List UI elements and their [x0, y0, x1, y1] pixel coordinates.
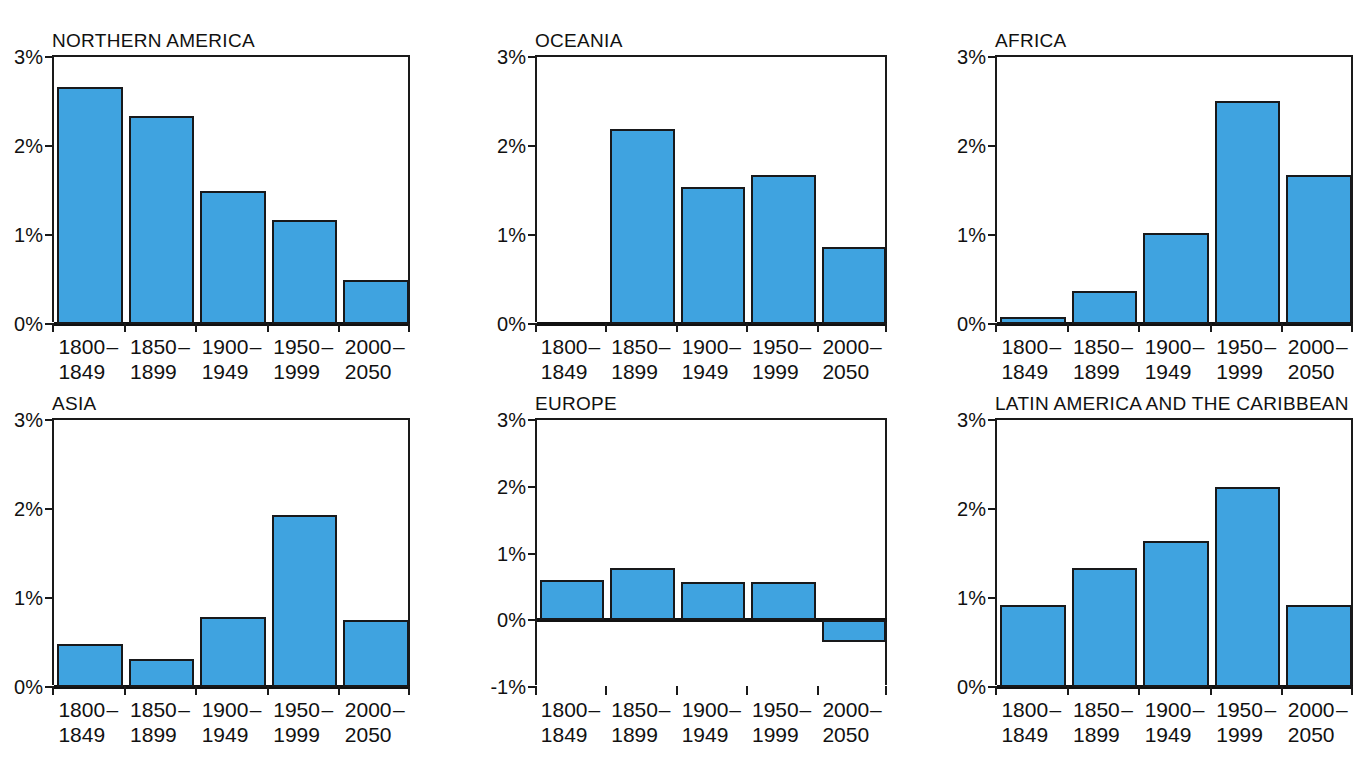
x-axis-label-range-dash: –	[1050, 334, 1062, 359]
bar	[129, 116, 195, 324]
x-axis-label-start-year: 2000	[345, 335, 392, 358]
x-axis-label-start-year: 1850	[611, 698, 658, 721]
x-axis-label-start-year: 1800	[541, 335, 588, 358]
x-axis-label-range-dash: –	[870, 334, 882, 359]
x-axis-label-start-year: 1900	[1145, 335, 1192, 358]
x-axis-tick-mark	[338, 686, 340, 695]
bar	[751, 175, 815, 324]
chart-title: OCEANIA	[535, 31, 623, 50]
x-axis-label-end-year: 2050	[1275, 359, 1347, 384]
bar	[681, 187, 745, 324]
x-axis-tick-mark	[408, 686, 410, 695]
x-axis-tick-mark	[746, 323, 748, 332]
bar	[343, 280, 409, 325]
chart-title: EUROPE	[535, 394, 617, 413]
x-axis-label-start-year: 1950	[1216, 698, 1263, 721]
bar	[57, 644, 123, 687]
plot-area: -1%0%1%2%3%	[535, 418, 887, 685]
plot-area: 0%1%2%3%	[535, 55, 887, 322]
y-axis-tick-3pct: 3%	[957, 410, 997, 430]
x-axis-tick-mark	[195, 323, 197, 332]
x-axis-tick-mark	[1067, 686, 1069, 695]
x-axis-label-start-year: 1900	[682, 335, 729, 358]
y-axis-tick-mark	[45, 508, 54, 510]
x-axis-label-start-year: 1950	[752, 698, 799, 721]
x-axis-label-end-year: 1949	[189, 359, 261, 384]
bar	[1286, 175, 1352, 324]
x-axis-label-range-dash: –	[321, 334, 333, 359]
x-axis-label-end-year: 1999	[261, 359, 333, 384]
y-axis-tick-mark	[528, 234, 537, 236]
y-axis-tick-1pct: 1%	[957, 225, 997, 245]
x-axis-tick-mark	[676, 686, 678, 695]
bar	[1286, 605, 1352, 687]
x-axis-label-range-dash: –	[659, 334, 671, 359]
x-axis-label-range-dash: –	[729, 334, 741, 359]
x-axis-label-start-year: 2000	[822, 698, 869, 721]
bar	[272, 220, 338, 324]
chart-title: AFRICA	[995, 31, 1066, 50]
x-axis-label-end-year: 2050	[811, 722, 881, 747]
x-axis-label-start-year: 1800	[1001, 335, 1048, 358]
chart-title: ASIA	[52, 394, 97, 413]
x-axis-label-start-year: 1900	[202, 335, 249, 358]
x-axis-label-range-dash: –	[178, 334, 190, 359]
y-axis-tick-0pct: 0%	[14, 314, 54, 334]
x-axis-label-end-year: 1849	[46, 359, 118, 384]
bar	[540, 580, 604, 620]
x-axis-label-range-dash: –	[800, 334, 812, 359]
y-axis-tick-2pct: 2%	[497, 477, 537, 497]
x-axis-label-start-year: 1800	[1001, 698, 1048, 721]
bar	[343, 620, 409, 687]
x-axis-label-end-year: 1999	[261, 722, 333, 747]
x-axis-label-range-dash: –	[1121, 697, 1133, 722]
plot-area: 0%1%2%3%	[995, 55, 1353, 322]
bar	[200, 617, 266, 687]
x-axis-label-end-year: 1849	[989, 722, 1061, 747]
x-axis-label-end-year: 1999	[1204, 359, 1276, 384]
x-axis-tick-mark	[338, 323, 340, 332]
x-axis-label-range-dash: –	[107, 334, 119, 359]
x-axis-tick-mark	[267, 323, 269, 332]
chart-panel-oceania: OCEANIA0%1%2%3%18001849–18501899–1900194…	[535, 55, 887, 322]
x-axis-label-range-dash: –	[250, 334, 262, 359]
x-axis-tick-mark	[1351, 686, 1353, 695]
y-axis-tick-1pct: 1%	[957, 588, 997, 608]
x-axis-label-range-dash: –	[729, 697, 741, 722]
x-axis-label-end-year: 1849	[529, 722, 599, 747]
x-axis-label-end-year: 1999	[740, 359, 810, 384]
x-axis-label-end-year: 1899	[118, 359, 190, 384]
y-axis-tick-2pct: 2%	[957, 136, 997, 156]
x-axis-label-end-year: 1899	[118, 722, 190, 747]
x-axis-label-start-year: 2000	[1288, 335, 1335, 358]
x-axis-label-range-dash: –	[1050, 697, 1062, 722]
plot-area: 0%1%2%3%	[995, 418, 1353, 685]
x-axis-label-range-dash: –	[1264, 334, 1276, 359]
x-axis-label-end-year: 1899	[1061, 359, 1133, 384]
y-axis-tick-2pct: 2%	[14, 499, 54, 519]
bar	[1143, 233, 1209, 324]
bar	[822, 620, 886, 642]
x-axis-label-start-year: 1900	[1145, 698, 1192, 721]
x-axis-label-end-year: 1849	[989, 359, 1061, 384]
x-axis-tick-mark	[124, 686, 126, 695]
x-axis-tick-mark	[1351, 323, 1353, 332]
x-axis-label-end-year: 1949	[670, 722, 740, 747]
y-axis-tick-mark	[45, 145, 54, 147]
x-axis-label-start-year: 2000	[822, 335, 869, 358]
x-axis-label-start-year: 1900	[682, 698, 729, 721]
x-axis-tick-mark	[535, 323, 537, 332]
x-axis-tick-mark	[995, 323, 997, 332]
x-axis-tick-mark	[124, 323, 126, 332]
x-axis-label-start-year: 1900	[202, 698, 249, 721]
x-axis-tick-mark	[535, 686, 537, 695]
chart-panel-northern-america: NORTHERN AMERICA0%1%2%3%18001849–1850189…	[52, 55, 410, 322]
x-axis-tick-mark	[408, 323, 410, 332]
bar	[751, 582, 815, 620]
chart-panel-asia: ASIA0%1%2%3%18001849–18501899–19001949–1…	[52, 418, 410, 685]
x-axis-tick-mark	[1138, 323, 1140, 332]
y-axis-tick-mark	[528, 56, 537, 58]
x-axis-tick-mark	[1067, 323, 1069, 332]
bar	[610, 129, 674, 324]
bar	[1143, 541, 1209, 687]
